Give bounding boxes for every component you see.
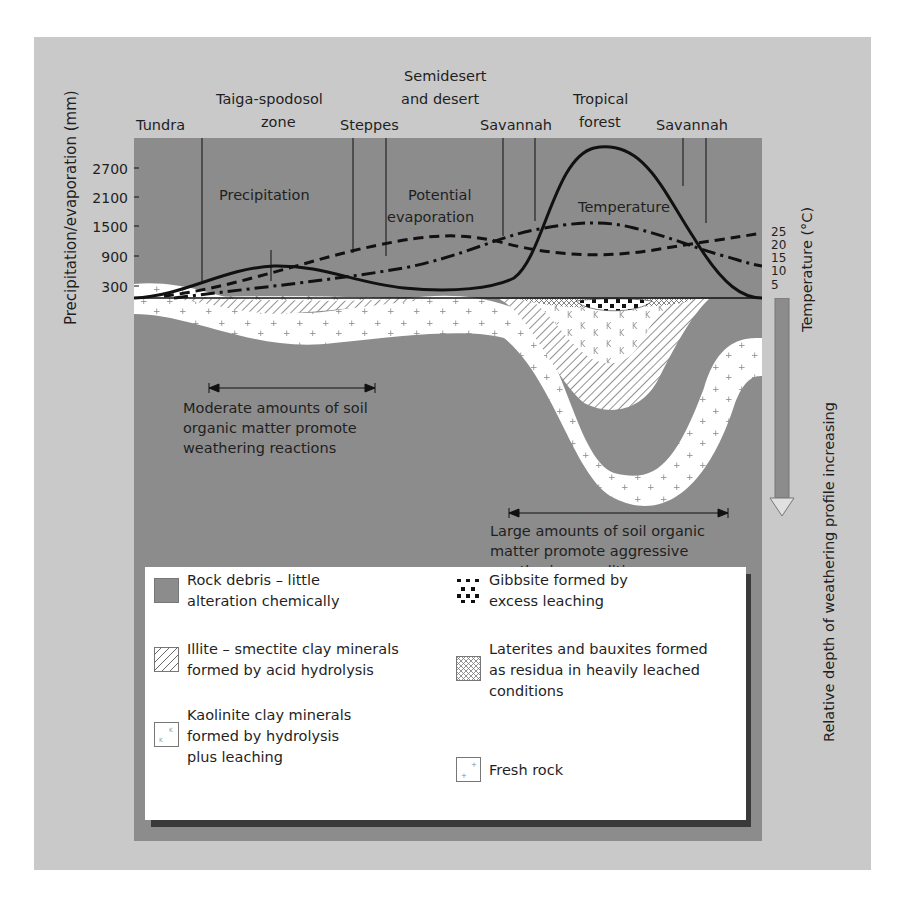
zone-label-taiga-2: zone: [261, 114, 296, 131]
temp-tick-10: 10: [771, 265, 786, 277]
zone-label-tropical-2: forest: [579, 114, 621, 131]
zone-label-savannah-1: Savannah: [480, 117, 552, 134]
kaolinite-swatch-icon: K K: [154, 722, 179, 747]
zone-label-tundra: Tundra: [136, 117, 185, 134]
fresh-rock-swatch-icon: + +: [456, 757, 481, 782]
legend-item-laterite: Laterites and bauxites formed as residua…: [456, 639, 708, 702]
annotation-large-line1: Large amounts of soil organic: [490, 523, 705, 540]
zone-label-taiga: Taiga-spodosol: [216, 91, 323, 108]
svg-text:+: +: [471, 761, 477, 769]
legend-label: Laterites and bauxites formed as residua…: [489, 639, 708, 702]
legend: Rock debris – little alteration chemical…: [145, 567, 746, 820]
zone-label-steppes: Steppes: [340, 117, 399, 134]
zone-label-savannah-2: Savannah: [656, 117, 728, 134]
temp-tick-5: 5: [771, 279, 779, 291]
annotation-moderate-line2: organic matter promote: [183, 420, 368, 437]
zone-label-semidesert-2: and desert: [401, 91, 479, 108]
annotation-moderate: Moderate amounts of soil organic matter …: [183, 400, 368, 457]
svg-text:+: +: [461, 772, 467, 780]
depth-arrow-icon: [769, 298, 803, 520]
zone-label-semidesert: Semidesert: [404, 68, 487, 85]
legend-label: Rock debris – little alteration chemical…: [187, 570, 339, 612]
temp-tick-15: 15: [771, 252, 786, 264]
temp-tick-25: 25: [771, 226, 786, 238]
legend-item-fresh-rock: + + Fresh rock: [456, 760, 563, 782]
legend-item-illite: Illite – smectite clay minerals formed b…: [154, 639, 399, 681]
curve-label-evaporation-2: evaporation: [387, 209, 474, 226]
y-axis-title: Precipitation/evaporation (mm): [62, 90, 80, 325]
annotation-moderate-line1: Moderate amounts of soil: [183, 400, 368, 417]
curve-label-precipitation: Precipitation: [219, 187, 310, 204]
y-tick-2700: 2700: [82, 161, 128, 177]
y-tick-1500: 1500: [82, 219, 128, 235]
legend-label: Gibbsite formed by excess leaching: [489, 570, 628, 612]
legend-label: Fresh rock: [489, 760, 563, 781]
rock-debris-swatch-icon: [154, 578, 179, 603]
zone-label-tropical: Tropical: [573, 91, 628, 108]
illite-hatch-swatch-icon: [154, 647, 179, 672]
legend-item-rock-debris: Rock debris – little alteration chemical…: [154, 570, 339, 612]
temp-tick-20: 20: [771, 239, 786, 251]
y-tick-900: 900: [82, 249, 128, 265]
gibbsite-swatch-icon: [456, 578, 481, 603]
legend-label: Illite – smectite clay minerals formed b…: [187, 639, 399, 681]
curve-label-evaporation: Potential: [408, 187, 472, 204]
annotation-large-line2: matter promote aggressive: [490, 543, 705, 560]
legend-item-kaolinite: K K Kaolinite clay minerals formed by hy…: [154, 705, 351, 768]
depth-axis-title: Relative depth of weathering profile inc…: [821, 402, 837, 742]
y-tick-2100: 2100: [82, 190, 128, 206]
laterite-crosshatch-swatch-icon: [456, 656, 481, 681]
annotation-moderate-line3: weathering reactions: [183, 440, 368, 457]
y-tick-300: 300: [82, 279, 128, 295]
curve-label-temperature: Temperature: [578, 199, 670, 216]
legend-item-gibbsite: Gibbsite formed by excess leaching: [456, 570, 628, 612]
legend-label: Kaolinite clay minerals formed by hydrol…: [187, 705, 351, 768]
